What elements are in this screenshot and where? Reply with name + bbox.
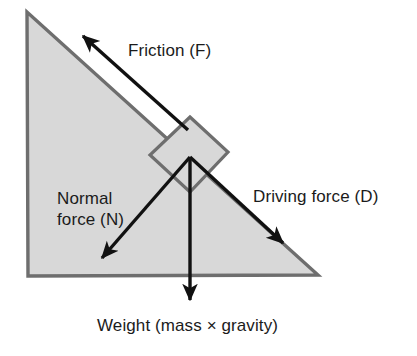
friction-force-label: Friction (F) xyxy=(128,40,211,61)
normal-force-label-line1: Normal xyxy=(57,189,112,208)
driving-force-label: Driving force (D) xyxy=(253,186,378,207)
normal-force-label: Normalforce (N) xyxy=(57,188,124,230)
weight-force-label: Weight (mass × gravity) xyxy=(97,315,278,336)
normal-force-label-line2: force (N) xyxy=(57,210,124,229)
force-diagram: Friction (F) Normalforce (N) Driving for… xyxy=(0,0,417,356)
